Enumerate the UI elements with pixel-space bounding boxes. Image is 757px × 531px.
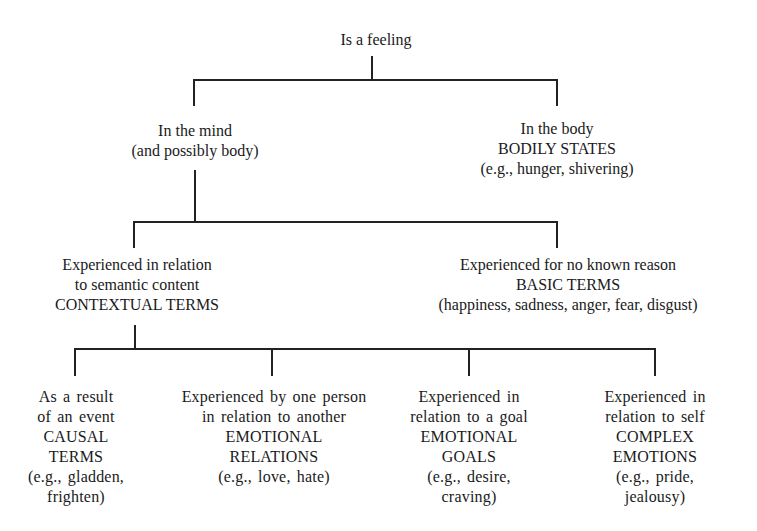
node-text: Experienced in relation xyxy=(55,255,219,275)
node-label: TERMS xyxy=(28,447,124,467)
node-examples: frighten) xyxy=(28,487,124,507)
node-text: in relation to another xyxy=(182,407,367,427)
connector-to-causal xyxy=(74,348,76,376)
node-label: COMPLEX xyxy=(604,427,705,447)
node-text: (and possibly body) xyxy=(131,141,258,161)
node-examples: jealousy) xyxy=(604,487,705,507)
node-text: to semantic content xyxy=(55,275,219,295)
node-examples: craving) xyxy=(410,487,528,507)
node-causal-terms: As a result of an event CAUSAL TERMS (e.… xyxy=(28,387,124,507)
connector-to-basic xyxy=(556,221,558,248)
connector-to-relations xyxy=(271,348,273,376)
connector-contextual-bar xyxy=(74,348,656,350)
node-complex-emotions: Experienced in relation to self COMPLEX … xyxy=(604,387,705,507)
node-text: Experienced by one person xyxy=(182,387,367,407)
connector-to-goals xyxy=(468,348,470,376)
node-label-bodily-states: BODILY STATES xyxy=(480,139,633,159)
node-label-contextual-terms: CONTEXTUAL TERMS xyxy=(55,295,219,315)
node-basic-terms: Experienced for no known reason BASIC TE… xyxy=(438,255,697,315)
connector-root-stem xyxy=(371,56,373,81)
connector-to-contextual xyxy=(133,221,135,248)
node-text: As a result xyxy=(28,387,124,407)
connector-mind-bar xyxy=(133,221,558,223)
node-contextual-terms: Experienced in relation to semantic cont… xyxy=(55,255,219,315)
node-examples: (e.g., gladden, xyxy=(28,467,124,487)
node-emotional-relations: Experienced by one person in relation to… xyxy=(182,387,367,487)
node-in-the-body: In the body BODILY STATES (e.g., hunger,… xyxy=(480,119,633,179)
connector-to-mind xyxy=(193,79,195,106)
node-label: EMOTIONS xyxy=(604,447,705,467)
node-text: relation to self xyxy=(604,407,705,427)
node-label: RELATIONS xyxy=(182,447,367,467)
node-text: relation to a goal xyxy=(410,407,528,427)
node-examples: (e.g., pride, xyxy=(604,467,705,487)
node-emotional-goals: Experienced in relation to a goal EMOTIO… xyxy=(410,387,528,507)
node-text: In the mind xyxy=(131,121,258,141)
connector-to-complex xyxy=(654,348,656,376)
node-label: CAUSAL xyxy=(28,427,124,447)
node-text: Experienced for no known reason xyxy=(438,255,697,275)
node-text: Experienced in xyxy=(604,387,705,407)
node-label-basic-terms: BASIC TERMS xyxy=(438,275,697,295)
node-is-a-feeling: Is a feeling xyxy=(340,30,411,50)
node-text: In the body xyxy=(480,119,633,139)
node-text: Experienced in xyxy=(410,387,528,407)
node-text: of an event xyxy=(28,407,124,427)
connector-mind-stem xyxy=(194,170,196,223)
node-label: EMOTIONAL xyxy=(410,427,528,447)
node-in-the-mind: In the mind (and possibly body) xyxy=(131,121,258,161)
connector-root-bar xyxy=(193,79,558,81)
node-examples: (e.g., desire, xyxy=(410,467,528,487)
node-label: GOALS xyxy=(410,447,528,467)
node-examples: (e.g., hunger, shivering) xyxy=(480,159,633,179)
node-label: EMOTIONAL xyxy=(182,427,367,447)
connector-contextual-stem xyxy=(134,325,136,350)
node-examples: (happiness, sadness, anger, fear, disgus… xyxy=(438,295,697,315)
emotion-taxonomy-tree: Is a feeling In the mind (and possibly b… xyxy=(0,0,757,531)
node-text: Is a feeling xyxy=(340,30,411,50)
node-examples: (e.g., love, hate) xyxy=(182,467,367,487)
connector-to-body xyxy=(556,79,558,106)
